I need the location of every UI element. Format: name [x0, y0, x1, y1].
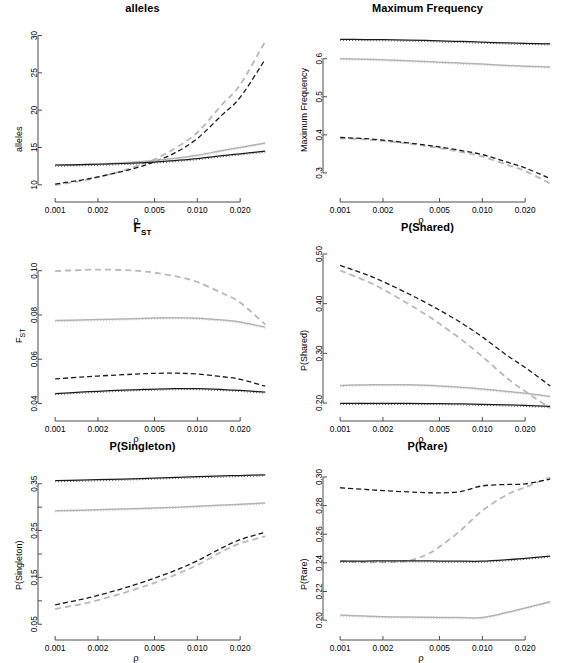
series-line [55, 475, 265, 481]
x-axis: 0.0010.0020.0050.0100.020 [45, 417, 251, 434]
y-tick-label: 0.5 [314, 91, 324, 103]
y-tick-label: 0.50 [314, 246, 324, 263]
y-tick-label: 20 [29, 105, 39, 115]
y-axis: 0.040.060.080.10 [29, 262, 42, 411]
y-tick-label: 0.22 [314, 583, 324, 600]
plot-area: 0.0010.0020.0050.0100.0200.200.300.400.5… [285, 219, 570, 438]
x-axis-label: ρ [285, 652, 557, 663]
y-axis-label: alleles [14, 126, 24, 152]
panel-f-st: FST0.0010.0020.0050.0100.0200.040.060.08… [0, 219, 285, 438]
y-axis: 1015202530 [29, 30, 42, 189]
series-overlay-line [55, 476, 265, 482]
y-tick-label: 0.20 [314, 612, 324, 629]
x-axis: 0.0010.0020.0050.0100.020 [45, 636, 251, 653]
panel-alleles: alleles0.0010.0020.0050.0100.02010152025… [0, 0, 285, 219]
y-tick-label: 0.20 [314, 395, 324, 412]
series-line [340, 556, 550, 561]
series-overlay-line [340, 60, 550, 68]
y-axis-label: P(Rare) [299, 558, 309, 590]
y-tick-label: 15 [29, 142, 39, 152]
y-axis-label: Maximum Frequency [299, 68, 309, 152]
panel-p-rare: P(Rare)0.0010.0020.0050.0100.0200.200.22… [285, 438, 570, 657]
plot-area: 0.0010.0020.0050.0100.0200.200.220.240.2… [285, 438, 570, 657]
series-line [55, 373, 265, 386]
y-axis-label: P(Singleton) [14, 540, 24, 590]
y-tick-label: 0.6 [314, 53, 324, 65]
series-line [55, 41, 265, 185]
panel-maximum-frequency: Maximum Frequency0.0010.0020.0050.0100.0… [285, 0, 570, 219]
y-tick-label: 0.25 [29, 522, 39, 539]
y-axis: 0.050.150.250.35 [29, 475, 42, 632]
series-line [55, 389, 265, 394]
y-tick-label: 0.08 [29, 307, 39, 324]
series-line [55, 59, 265, 184]
x-axis: 0.0010.0020.0050.0100.020 [45, 198, 251, 215]
series-line [340, 59, 550, 67]
y-tick-label: 0.3 [314, 167, 324, 179]
x-axis: 0.0010.0020.0050.0100.020 [330, 198, 536, 215]
y-tick-label: 0.4 [314, 129, 324, 141]
series-line [340, 138, 550, 183]
plot-area: 0.0010.0020.0050.0100.0200.050.150.250.3… [0, 438, 285, 657]
y-tick-label: 30 [29, 30, 39, 40]
y-tick-label: 0.04 [29, 395, 39, 412]
plot-area: 0.0010.0020.0050.0100.0201015202530 [0, 0, 285, 219]
series-line [340, 477, 550, 562]
y-tick-label: 0.28 [314, 497, 324, 514]
y-tick-label: 0.15 [29, 569, 39, 586]
x-axis: 0.0010.0020.0050.0100.020 [330, 636, 536, 653]
y-tick-label: 0.06 [29, 351, 39, 368]
plot-area: 0.0010.0020.0050.0100.0200.040.060.080.1… [0, 219, 285, 438]
series-line [340, 137, 550, 178]
y-tick-label: 0.35 [29, 475, 39, 492]
series-line [55, 270, 265, 325]
x-axis-label: ρ [0, 652, 272, 663]
y-axis: 0.30.40.50.6 [314, 53, 327, 179]
y-axis: 0.200.300.400.50 [314, 246, 327, 412]
y-tick-label: 0.10 [29, 262, 39, 279]
y-tick-label: 25 [29, 68, 39, 78]
panel-p-shared: P(Shared)0.0010.0020.0050.0100.0200.200.… [285, 219, 570, 438]
y-tick-label: 0.24 [314, 554, 324, 571]
series-line [340, 602, 550, 618]
plot-area: 0.0010.0020.0050.0100.0200.30.40.50.6 [285, 0, 570, 219]
series-line [340, 479, 550, 493]
x-axis: 0.0010.0020.0050.0100.020 [330, 417, 536, 434]
series-line [55, 532, 265, 605]
y-tick-label: 0.30 [314, 345, 324, 362]
y-tick-label: 0.26 [314, 526, 324, 543]
panel-p-singleton: P(Singleton)0.0010.0020.0050.0100.0200.0… [0, 438, 285, 657]
y-axis-label: P(Shared) [299, 330, 309, 371]
y-tick-label: 10 [29, 180, 39, 190]
y-tick-label: 0.30 [314, 469, 324, 486]
y-axis-label: FST [14, 329, 26, 343]
y-tick-label: 0.40 [314, 295, 324, 312]
series-line [55, 503, 265, 511]
y-axis: 0.200.220.240.260.280.30 [314, 469, 327, 629]
y-tick-label: 0.05 [29, 616, 39, 633]
